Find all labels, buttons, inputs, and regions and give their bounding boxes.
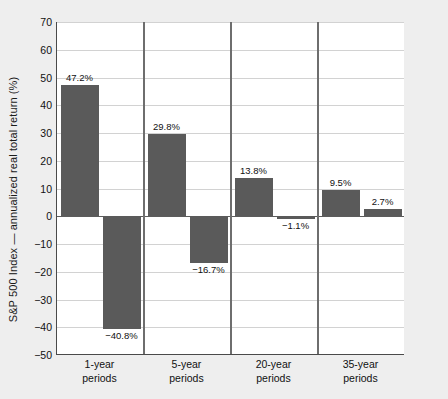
y-axis-tick-label: 20 bbox=[6, 155, 52, 167]
y-axis-tick-labels: 706050403020100−10−20−30−40−50 bbox=[0, 22, 52, 355]
category-label-line2: periods bbox=[143, 372, 230, 386]
bar-value-label: −40.8% bbox=[95, 330, 149, 341]
y-axis-tick-label: 10 bbox=[6, 183, 52, 195]
plot-area: 47.2%−40.8%29.8%−16.7%13.8%−1.1%9.5%2.7% bbox=[56, 22, 404, 355]
bar-35-year-periods-worst bbox=[364, 209, 402, 216]
chart-figure: S&P 500 Index — annualized real total re… bbox=[0, 0, 448, 399]
bar-value-label: 2.7% bbox=[356, 196, 410, 207]
bar-value-label: 13.8% bbox=[227, 165, 281, 176]
y-axis-tick-label: −30 bbox=[6, 294, 52, 306]
y-axis-tick-label: 0 bbox=[6, 210, 52, 222]
x-axis-category-20-year-periods: 20-yearperiods bbox=[230, 358, 317, 385]
y-axis-tick-label: −40 bbox=[6, 321, 52, 333]
bar-value-label: 29.8% bbox=[140, 121, 194, 132]
y-axis-tick-label: 30 bbox=[6, 127, 52, 139]
y-axis-tick-label: −10 bbox=[6, 238, 52, 250]
group-separator bbox=[317, 22, 318, 354]
bar-value-label: 9.5% bbox=[314, 177, 368, 188]
bar-value-label: −16.7% bbox=[182, 264, 236, 275]
y-axis-tick-label: 60 bbox=[6, 44, 52, 56]
x-axis-category-5-year-periods: 5-yearperiods bbox=[143, 358, 230, 385]
bar-35-year-periods-best bbox=[322, 190, 360, 216]
group-separator bbox=[143, 22, 144, 354]
y-axis-tick-label: 50 bbox=[6, 72, 52, 84]
y-axis-tick-label: −20 bbox=[6, 266, 52, 278]
bar-1-year-periods-worst bbox=[103, 216, 141, 329]
category-label-line2: periods bbox=[230, 372, 317, 386]
bar-1-year-periods-best bbox=[61, 85, 99, 216]
category-label-line1: 35-year bbox=[317, 358, 404, 372]
x-axis-category-labels: 1-yearperiods5-yearperiods20-yearperiods… bbox=[56, 358, 404, 398]
bar-value-label: 47.2% bbox=[53, 72, 107, 83]
category-label-line2: periods bbox=[317, 372, 404, 386]
category-label-line1: 1-year bbox=[56, 358, 143, 372]
category-label-line1: 20-year bbox=[230, 358, 317, 372]
bar-5-year-periods-best bbox=[148, 134, 186, 217]
y-axis-tick-label: 70 bbox=[6, 16, 52, 28]
group-separator bbox=[230, 22, 231, 354]
category-label-line1: 5-year bbox=[143, 358, 230, 372]
x-axis-category-1-year-periods: 1-yearperiods bbox=[56, 358, 143, 385]
bar-20-year-periods-worst bbox=[277, 216, 315, 219]
bar-5-year-periods-worst bbox=[190, 216, 228, 262]
y-axis-tick-label: 40 bbox=[6, 99, 52, 111]
x-axis-category-35-year-periods: 35-yearperiods bbox=[317, 358, 404, 385]
category-label-line2: periods bbox=[56, 372, 143, 386]
bar-value-label: −1.1% bbox=[269, 220, 323, 231]
y-axis-tick-label: −50 bbox=[6, 349, 52, 361]
bar-20-year-periods-best bbox=[235, 178, 273, 216]
